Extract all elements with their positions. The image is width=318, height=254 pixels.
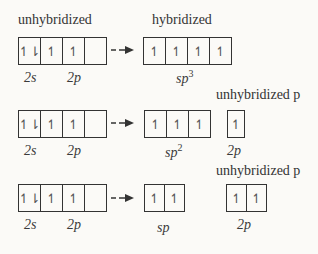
ground-state-orbitals-row1: ↿⇂ ↿ ↿	[18, 37, 107, 65]
unhybridized-header: unhybridized	[18, 12, 92, 28]
unhybridized-p-orbital-row2: ↿	[227, 110, 245, 138]
orbital-cell-sp3: ↿	[166, 38, 188, 64]
orbital-cell-sp3: ↿	[210, 38, 231, 64]
orbital-cell-2p: ↿	[247, 185, 266, 211]
orbital-cell-sp2: ↿	[167, 111, 189, 137]
label-sp3: sp3	[176, 68, 193, 87]
orbital-cell-2p: ↿	[227, 185, 247, 211]
orbital-cell-2p: ↿	[63, 185, 85, 211]
label-2p: 2p	[67, 217, 81, 233]
orbital-cell-sp3: ↿	[188, 38, 210, 64]
label-unhybrid-2p: 2p	[227, 143, 241, 159]
dashed-arrow-icon	[111, 193, 135, 203]
orbital-cell-2s: ↿⇂	[19, 185, 41, 211]
label-2s: 2s	[24, 70, 36, 86]
orbital-cell-2p: ↿	[63, 111, 85, 137]
orbital-cell-2p: ↿	[63, 38, 85, 64]
label-2p: 2p	[67, 70, 81, 86]
dashed-arrow-icon	[111, 45, 135, 55]
orbital-cell-2p: ↿	[41, 185, 63, 211]
label-unhybrid-2p: 2p	[237, 217, 251, 233]
dashed-arrow-icon	[111, 118, 135, 128]
label-2s: 2s	[24, 143, 36, 159]
orbital-cell-sp: ↿	[145, 185, 165, 211]
sp3-orbitals: ↿ ↿ ↿ ↿	[143, 37, 232, 65]
ground-state-orbitals-row3: ↿⇂ ↿ ↿	[18, 184, 107, 212]
hybridized-header: hybridized	[152, 12, 212, 28]
orbital-cell-sp2: ↿	[189, 111, 210, 137]
unhybridized-p-header-row2: unhybridized p	[216, 87, 300, 103]
sp-orbitals: ↿ ↿	[144, 184, 185, 212]
sp2-orbitals: ↿ ↿ ↿	[144, 110, 211, 138]
orbital-cell-2p	[85, 111, 106, 137]
orbital-cell-sp2: ↿	[145, 111, 167, 137]
orbital-cell-2p: ↿	[41, 38, 63, 64]
label-2p: 2p	[67, 143, 81, 159]
orbital-cell-2p: ↿	[41, 111, 63, 137]
orbital-cell-sp3: ↿	[144, 38, 166, 64]
ground-state-orbitals-row2: ↿⇂ ↿ ↿	[18, 110, 107, 138]
label-2s: 2s	[24, 217, 36, 233]
orbital-cell-2p	[85, 38, 106, 64]
orbital-cell-2p: ↿	[228, 111, 244, 137]
label-sp: sp	[157, 217, 169, 236]
label-sp2: sp2	[165, 142, 182, 161]
unhybridized-p-orbitals-row3: ↿ ↿	[226, 184, 267, 212]
unhybridized-p-header-row3: unhybridized p	[216, 163, 300, 179]
orbital-cell-2s: ↿⇂	[19, 111, 41, 137]
orbital-cell-sp: ↿	[165, 185, 184, 211]
orbital-cell-2s: ↿⇂	[19, 38, 41, 64]
orbital-cell-2p	[85, 185, 106, 211]
